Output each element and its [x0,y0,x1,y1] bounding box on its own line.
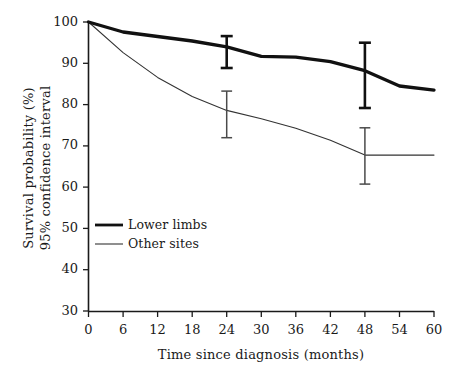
y-tick-label-90: 90 [61,55,78,70]
series-line-lower-limbs [89,22,435,90]
x-tick-label-30: 30 [253,322,270,337]
legend-item-other-sites: Other sites [95,236,199,251]
axes-group [88,22,434,312]
y-axis-title-line2: 95% confidence interval [38,86,53,251]
x-axis-title: Time since diagnosis (months) [158,347,364,362]
y-tick-label-30: 30 [61,303,78,318]
x-tick-label-42: 42 [322,322,339,337]
legend-item-lower-limbs: Lower limbs [95,217,207,232]
x-tick-label-24: 24 [218,322,235,337]
y-tick-label-40: 40 [61,261,78,276]
legend-label-lower-limbs: Lower limbs [128,217,207,232]
x-tick-label-54: 54 [391,322,408,337]
series-other-sites [89,22,435,184]
x-tick-label-36: 36 [288,322,305,337]
survival-curve-chart: 100 90 80 70 60 50 40 30 0 6 12 [0,0,464,383]
y-tick-label-70: 70 [61,137,78,152]
chart-legend: Lower limbs Other sites [95,217,207,251]
x-tick-label-60: 60 [426,322,443,337]
y-axis-title-line1: Survival probability (%) [21,87,36,249]
series-line-other-sites [89,22,435,155]
x-axis-tick-labels: 0 6 12 18 24 30 36 42 48 54 60 [84,322,442,337]
y-tick-label-100: 100 [53,14,78,29]
y-tick-label-60: 60 [61,179,78,194]
errorbar-other-sites-24 [221,91,232,138]
errorbar-lower-limbs-24 [221,36,233,68]
x-tick-label-48: 48 [357,322,374,337]
errorbar-other-sites-48 [360,128,371,184]
errorbar-lower-limbs-48 [359,43,371,108]
y-axis-ticks [83,22,88,311]
x-tick-label-12: 12 [149,322,166,337]
y-tick-label-50: 50 [61,220,78,235]
y-axis-tick-labels: 100 90 80 70 60 50 40 30 [53,14,78,318]
x-tick-label-0: 0 [84,322,92,337]
legend-label-other-sites: Other sites [128,236,199,251]
x-tick-label-6: 6 [119,322,127,337]
y-tick-label-80: 80 [61,96,78,111]
chart-canvas: 100 90 80 70 60 50 40 30 0 6 12 [0,0,464,383]
x-tick-label-18: 18 [184,322,201,337]
